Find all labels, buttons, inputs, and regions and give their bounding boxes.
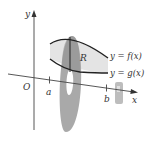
origin-label: O xyxy=(23,82,31,92)
small-washer-slice xyxy=(115,82,123,104)
y-axis-label: y xyxy=(24,9,31,19)
diagram-canvas: y O a b x R y = f(x) y = g(x) xyxy=(0,0,156,142)
x-axis-arrow-icon xyxy=(130,89,138,94)
region-r-label: R xyxy=(79,53,87,63)
washer-diagram: y O a b x R y = f(x) y = g(x) xyxy=(0,0,156,142)
curve-f-label: y = f(x) xyxy=(109,51,142,61)
curve-g-label: y = g(x) xyxy=(109,68,144,78)
x-axis-label: x xyxy=(132,95,137,105)
a-label: a xyxy=(46,87,51,97)
b-label: b xyxy=(104,94,110,104)
y-axis-arrow-icon xyxy=(32,10,37,17)
